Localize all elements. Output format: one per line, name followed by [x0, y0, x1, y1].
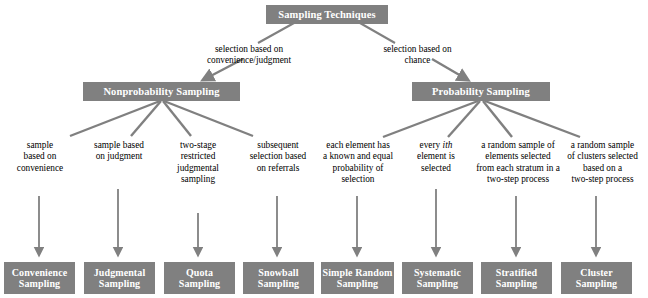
node-stratified-sampling-label: Stratified Sampling — [496, 267, 538, 289]
node-probability-sampling[interactable]: Probability Sampling — [412, 82, 550, 101]
node-cluster-sampling[interactable]: Cluster Sampling — [561, 262, 632, 294]
edge-label-probability: selection based on chance — [360, 44, 475, 66]
node-judgmental-sampling-label: Judgmental Sampling — [94, 267, 146, 289]
node-sampling-techniques-label: Sampling Techniques — [278, 9, 375, 21]
edge-root-to-nonprobability-a — [258, 23, 294, 43]
node-convenience-sampling-label: Convenience Sampling — [12, 267, 68, 289]
node-judgmental-sampling[interactable]: Judgmental Sampling — [84, 262, 155, 294]
node-systematic-sampling[interactable]: Systematic Sampling — [402, 262, 473, 294]
description-simple-random: each element has a known and equal proba… — [317, 140, 399, 185]
node-nonprobability-sampling[interactable]: Nonprobability Sampling — [83, 82, 240, 101]
node-stratified-sampling[interactable]: Stratified Sampling — [481, 262, 552, 294]
description-stratified: a random sample of elements selected fro… — [468, 140, 568, 185]
description-quota: two-stage restricted judgmental sampling — [161, 140, 235, 185]
node-convenience-sampling[interactable]: Convenience Sampling — [4, 262, 75, 294]
description-snowball: subsequent selection based on referrals — [236, 140, 320, 174]
description-systematic-after: element is selected — [417, 151, 455, 172]
edge-root-to-probability-a — [360, 23, 395, 43]
node-simple-random-sampling-label: Simple Random Sampling — [323, 267, 393, 289]
description-systematic: every ith element is selected — [402, 140, 470, 174]
node-simple-random-sampling[interactable]: Simple Random Sampling — [321, 262, 394, 294]
node-nonprobability-sampling-label: Nonprobability Sampling — [103, 86, 219, 98]
node-systematic-sampling-label: Systematic Sampling — [414, 267, 461, 289]
description-systematic-italic-th: th — [445, 140, 452, 150]
node-snowball-sampling[interactable]: Snowball Sampling — [243, 262, 314, 294]
edge-label-nonprobability: selection based on convenience/judgment — [183, 44, 315, 66]
edge-prob-to-desc-8 — [485, 101, 580, 137]
node-quota-sampling[interactable]: Quota Sampling — [164, 262, 235, 294]
sampling-techniques-diagram: Sampling Techniques selection based on c… — [0, 0, 648, 298]
node-cluster-sampling-label: Cluster Sampling — [576, 267, 617, 289]
node-quota-sampling-label: Quota Sampling — [179, 267, 220, 289]
node-sampling-techniques[interactable]: Sampling Techniques — [266, 5, 388, 24]
description-judgmental: sample based on judgment — [80, 140, 158, 163]
description-convenience: sample based on convenience — [1, 140, 79, 174]
description-cluster: a random sample of clusters selected bas… — [558, 140, 647, 185]
node-snowball-sampling-label: Snowball Sampling — [258, 267, 299, 289]
description-systematic-before: every — [420, 140, 443, 150]
node-probability-sampling-label: Probability Sampling — [432, 86, 530, 98]
